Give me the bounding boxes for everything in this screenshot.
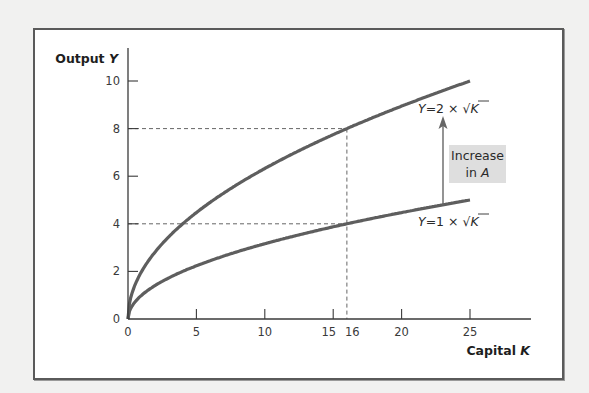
x-tick-label: 5 [193,325,200,339]
x-tick-label: 10 [257,325,272,339]
y-tick-label: 0 [113,312,120,326]
curves [128,81,470,319]
y-tick-label: 6 [113,169,120,183]
reference-lines [128,129,347,319]
x-tick-label: 25 [463,325,478,339]
svg-text:Y=2 × √K: Y=2 × √K [418,101,480,116]
lower-curve-label: Y=1 × √K [418,214,489,229]
y-axis-title: Output Y [55,51,120,66]
x-tick-label: 0 [124,325,131,339]
increase-in-a-annotation: Increase in A [439,116,507,205]
x-axis-title: Capital K [466,343,531,358]
y-tick-label: 8 [113,122,120,136]
x-tick-label: 20 [394,325,409,339]
y-tick-label: 10 [105,74,120,88]
arrow-up-icon [439,116,448,205]
annotation-line-2: in A [466,165,490,180]
axes [128,48,531,319]
curve-a2 [128,81,470,319]
svg-text:Y=1 × √K: Y=1 × √K [418,214,480,229]
x-tick-label: 16 [345,325,360,339]
upper-curve-label: Y=2 × √K [418,101,489,116]
y-tick-label: 4 [113,217,120,231]
annotation-line-1: Increase [451,148,504,163]
x-tick-label: 15 [322,325,337,339]
production-function-chart: 0246810051015162025 Output Y Capital K Y… [0,0,589,393]
y-tick-label: 2 [113,264,120,278]
